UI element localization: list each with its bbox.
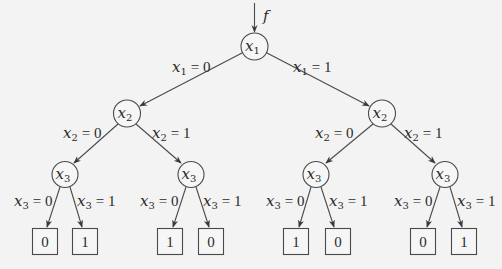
edge-label-x2-left-0: x2= 0 <box>63 124 102 143</box>
root-node-x1: x1 <box>241 33 268 60</box>
leaf-1: 0 <box>33 229 58 255</box>
edge-label-x2-left-1: x2= 1 <box>152 124 191 143</box>
node-x2-left: x2 <box>114 100 141 127</box>
leaf-6: 0 <box>326 229 351 255</box>
edge-label-x3-2-1: x3= 1 <box>203 192 242 211</box>
input-label-f: f <box>262 7 271 25</box>
svg-text:1: 1 <box>292 234 300 250</box>
edge-label-x3-3-1: x3= 1 <box>329 192 368 211</box>
edge-label-x3-3-0: x3= 0 <box>266 192 305 211</box>
edge-label-x3-2-0: x3= 0 <box>140 192 179 211</box>
edge-label-x2-right-0: x2= 0 <box>315 124 354 143</box>
svg-text:0: 0 <box>207 234 215 250</box>
node-x2-right: x2 <box>369 100 396 127</box>
svg-text:1: 1 <box>81 234 89 250</box>
leaf-8: 1 <box>452 229 477 255</box>
edge-label-x1-1: x1= 1 <box>293 58 332 77</box>
edge-label-x1-0: x1= 0 <box>172 58 211 77</box>
svg-text:0: 0 <box>419 234 427 250</box>
leaf-4: 0 <box>199 229 224 255</box>
edge-label-x3-1-1: x3= 1 <box>77 192 116 211</box>
svg-text:1: 1 <box>460 234 468 250</box>
edge-label-x3-4-0: x3= 0 <box>394 192 433 211</box>
leaf-7: 0 <box>411 229 436 255</box>
decision-tree-diagram: f x1 x1= 0 x1= 1 x2 x2 x2= 0 x2= 1 x2= 0… <box>0 0 502 269</box>
leaf-3: 1 <box>158 229 183 255</box>
leaf-2: 1 <box>73 229 98 255</box>
node-x3-2: x3 <box>178 162 204 188</box>
svg-text:1: 1 <box>166 234 174 250</box>
node-x3-1: x3 <box>52 162 78 188</box>
svg-text:0: 0 <box>334 234 342 250</box>
edge-label-x3-4-1: x3= 1 <box>457 192 496 211</box>
node-x3-3: x3 <box>303 162 329 188</box>
svg-text:0: 0 <box>41 234 49 250</box>
leaf-5: 1 <box>284 229 309 255</box>
node-x3-4: x3 <box>432 162 458 188</box>
edge-label-x2-right-1: x2= 1 <box>404 124 443 143</box>
edge-label-x3-1-0: x3= 0 <box>14 192 53 211</box>
